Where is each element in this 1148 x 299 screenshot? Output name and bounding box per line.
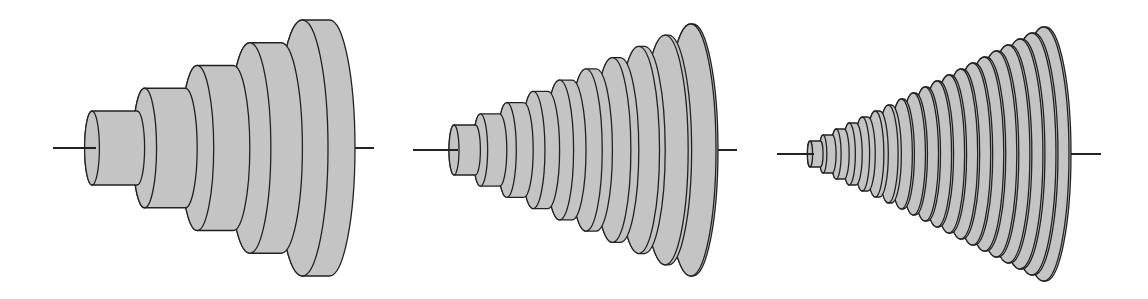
panel-10-slices [413,24,737,276]
panel-5-slices [53,20,374,276]
panel-20-slices [777,27,1101,281]
cone-approximation-diagram [0,0,1148,299]
